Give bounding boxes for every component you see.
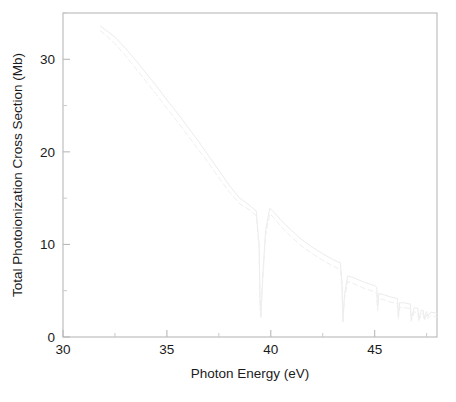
- plot-frame: [63, 13, 437, 337]
- y-tick-label: 30: [40, 52, 55, 67]
- x-axis-title: Photon Energy (eV): [191, 366, 310, 381]
- x-tick-label: 35: [159, 342, 174, 357]
- chart-svg: 30354045 0102030 Photon Energy (eV) Tota…: [0, 0, 456, 402]
- series-line-solid: [100, 26, 437, 320]
- y-tick-label: 0: [47, 330, 55, 345]
- y-tick-label: 10: [40, 237, 55, 252]
- photoionization-cross-section-chart: 30354045 0102030 Photon Energy (eV) Tota…: [0, 0, 456, 402]
- data-curves: [100, 26, 437, 322]
- x-axis-tick-labels: 30354045: [55, 342, 382, 357]
- y-axis-tick-labels: 0102030: [40, 52, 55, 345]
- y-axis-title: Total Photoionization Cross Section (Mb): [10, 53, 25, 297]
- series-line-dashed: [100, 31, 437, 323]
- y-axis-ticks: [63, 13, 70, 337]
- y-tick-label: 20: [40, 145, 55, 160]
- x-tick-label: 40: [263, 342, 278, 357]
- x-tick-label: 45: [367, 342, 382, 357]
- x-tick-label: 30: [55, 342, 70, 357]
- x-axis-ticks: [63, 330, 427, 337]
